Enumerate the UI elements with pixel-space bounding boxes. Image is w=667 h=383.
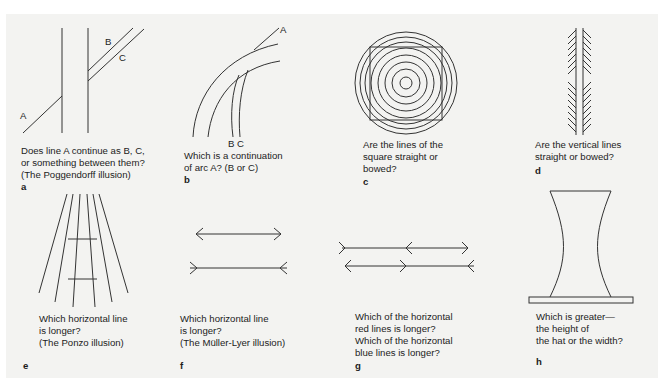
figure-b-caption: Which is a continuation of arc A? (B or …: [184, 150, 283, 174]
figure-e-caption: Which horizontal line is longer? (The Po…: [39, 313, 128, 349]
figure-d-vertical-lines-drawing: [568, 28, 591, 135]
figure-b-letter: b: [184, 174, 190, 185]
figure-a-label-C: C: [119, 52, 126, 64]
figure-c-circles-square-drawing: [355, 32, 457, 134]
figure-a-poggendorff-drawing: [23, 28, 144, 133]
figure-c-caption: Are the lines of the square straight or …: [363, 139, 443, 175]
figure-a-caption: Does line A continue as B, C, or somethi…: [21, 145, 145, 181]
figure-e-ponzo-drawing: [39, 194, 128, 307]
figure-b-arc-drawing: [193, 28, 280, 137]
figure-a-label-A: A: [20, 110, 26, 122]
figure-a-label-B: B: [105, 36, 111, 48]
figure-h-caption: Which is greater— the height of the hat …: [536, 311, 623, 347]
figure-g-muller-lyer-combined-drawing: [339, 242, 474, 272]
figure-h-letter: h: [536, 356, 542, 367]
figure-b-label-BC: B C: [228, 138, 244, 150]
figure-b-label-A: A: [280, 24, 286, 36]
figure-d-caption: Are the vertical lines straight or bowed…: [535, 139, 621, 163]
figure-f-caption: Which horizontal line is longer? (The Mü…: [180, 313, 285, 349]
figure-a-letter: a: [21, 181, 26, 192]
figure-g-letter: g: [355, 360, 361, 371]
figure-f-letter: f: [180, 360, 183, 371]
figure-c-letter: c: [363, 176, 368, 187]
figure-g-caption: Which of the horizontal red lines is lon…: [355, 311, 453, 359]
figure-e-letter: e: [23, 360, 28, 371]
figure-f-muller-lyer-drawing: [190, 228, 287, 274]
figure-d-letter: d: [535, 165, 541, 176]
figure-h-top-hat-drawing: [529, 191, 633, 303]
